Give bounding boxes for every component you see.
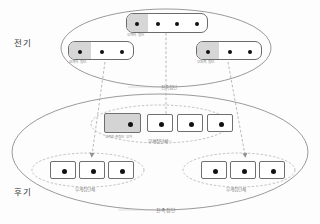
early-left-group[interactable] xyxy=(68,41,134,60)
late-boundary-caption: 친족집단 xyxy=(156,206,176,213)
late-left-box-1[interactable] xyxy=(50,161,76,179)
late-center-dot-1 xyxy=(128,122,133,127)
late-right-group-caption: 부계집단체 xyxy=(226,186,246,192)
connector-left-to-bottom-left xyxy=(90,62,105,158)
diagram-vectors xyxy=(0,0,320,224)
late-center-box-3[interactable] xyxy=(177,114,203,132)
late-center-dot-3 xyxy=(189,122,194,127)
early-right-group-label: 부처계 집단 xyxy=(197,59,214,64)
late-center-group-caption: 부계집단체 xyxy=(148,138,168,144)
late-center-box-2[interactable] xyxy=(147,114,173,132)
late-center-dot-2 xyxy=(159,122,164,127)
late-period-label: 후기 xyxy=(14,185,31,197)
late-left-dot-1 xyxy=(62,169,67,174)
late-period-boundary xyxy=(12,94,308,210)
early-top-group-label: 부계의 집단 xyxy=(127,32,144,37)
late-right-box-2[interactable] xyxy=(230,161,256,179)
early-right-dot-2 xyxy=(228,50,232,54)
late-center-dot-4 xyxy=(219,122,224,127)
early-right-group[interactable] xyxy=(196,41,262,60)
late-left-dot-3 xyxy=(120,169,125,174)
early-top-dot-4 xyxy=(195,22,199,26)
late-right-box-3[interactable] xyxy=(259,161,285,179)
early-top-group[interactable] xyxy=(126,13,208,33)
early-left-group-label: 모계의 집단 xyxy=(69,59,86,64)
early-left-dot-2 xyxy=(100,50,104,54)
early-top-dot-2 xyxy=(156,22,160,26)
early-right-dot-1 xyxy=(206,50,210,54)
late-right-dot-3 xyxy=(271,169,276,174)
late-right-dot-2 xyxy=(242,169,247,174)
late-right-box-1[interactable] xyxy=(201,161,227,179)
late-right-dot-1 xyxy=(213,169,218,174)
late-left-box-2[interactable] xyxy=(79,161,105,179)
connector-top-to-center xyxy=(164,33,169,120)
diagram-canvas: 전기 부계의 집단 모계의 집단 부처계 집단 친족집단 후기 부계친족집 xyxy=(0,0,320,224)
late-center-box-1[interactable] xyxy=(104,113,141,133)
late-center-box-4[interactable] xyxy=(207,114,233,132)
early-boundary-caption: 친족집단 xyxy=(161,84,177,90)
early-period-label: 전기 xyxy=(14,36,31,48)
early-left-dot-1 xyxy=(78,50,82,54)
early-top-dot-3 xyxy=(175,22,179,26)
late-left-dot-2 xyxy=(91,169,96,174)
late-left-box-3[interactable] xyxy=(108,161,134,179)
late-center-group-label: 부계친족집단 부가 xyxy=(105,134,132,139)
early-left-dot-3 xyxy=(120,50,124,54)
early-right-dot-3 xyxy=(248,50,252,54)
late-left-group-caption: 부계집단체 xyxy=(75,186,95,192)
